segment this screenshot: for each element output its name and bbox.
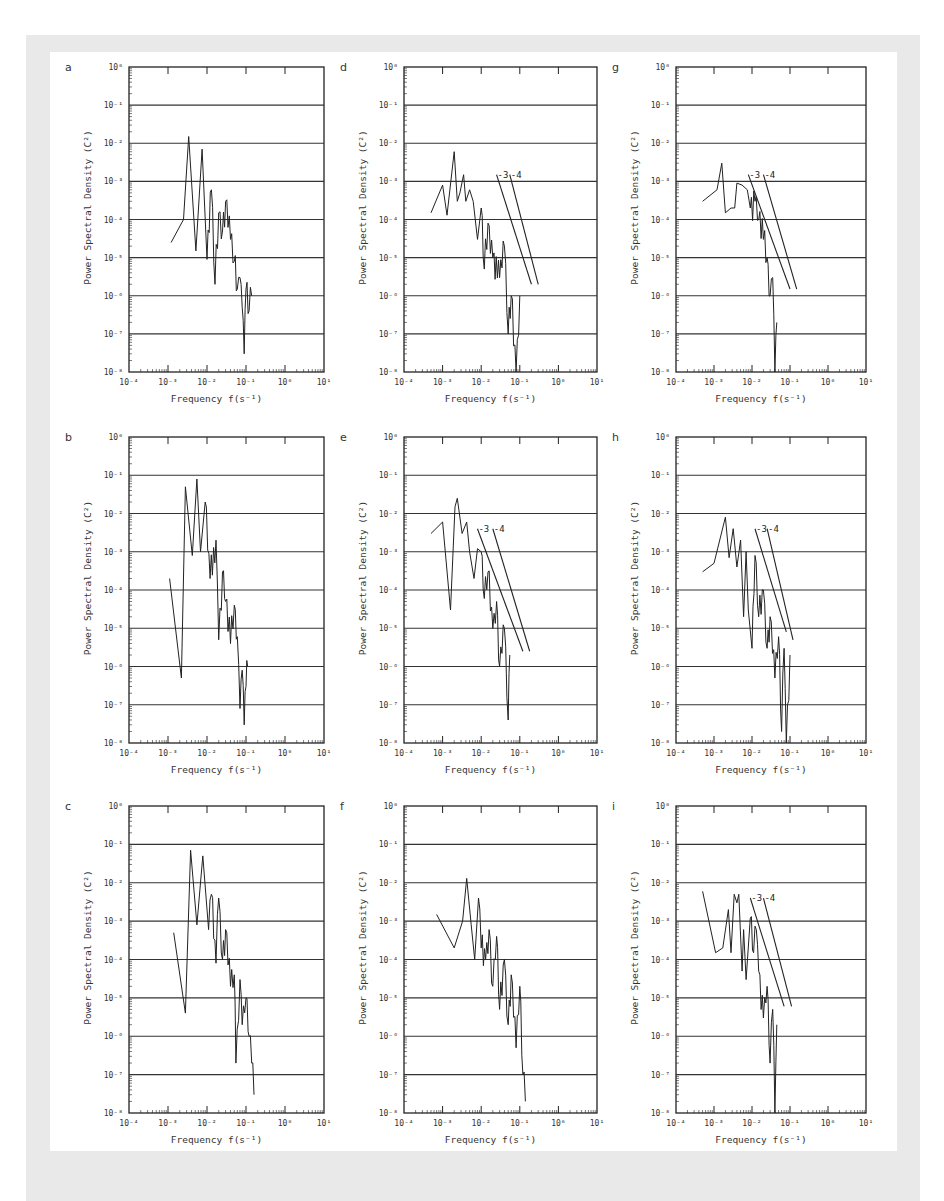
panel-letter: h xyxy=(612,431,619,444)
y-tick-label: 10⁻⁷ xyxy=(104,1071,123,1080)
x-tick-label: 10⁻² xyxy=(197,378,216,387)
y-tick-label: 10⁰ xyxy=(656,433,670,442)
y-tick-label: 10⁻² xyxy=(651,139,670,148)
y-tick-label: 10⁻⁸ xyxy=(651,739,670,748)
y-tick-label: 10⁻⁴ xyxy=(651,216,670,225)
x-tick-label: 10⁻⁴ xyxy=(119,749,138,758)
panel-letter: a xyxy=(65,61,72,74)
x-tick-label: 10¹ xyxy=(590,378,604,387)
x-tick-label: 10⁰ xyxy=(278,378,292,387)
panel-h: 10⁰10⁻¹10⁻²10⁻³10⁻⁴10⁻⁵10⁻⁶10⁻⁷10⁻⁸10⁻⁴1… xyxy=(612,431,873,775)
x-tick-label: 10⁻¹ xyxy=(236,1119,255,1128)
y-tick-label: 10⁻⁷ xyxy=(104,701,123,710)
x-tick-label: 10⁻³ xyxy=(433,378,452,387)
panel-letter: g xyxy=(612,61,619,74)
x-tick-label: 10¹ xyxy=(859,378,873,387)
x-tick-label: 10⁻¹ xyxy=(510,1119,529,1128)
y-tick-label: 10⁻⁴ xyxy=(104,956,123,965)
y-axis-label: Power Spectral Density (C²) xyxy=(357,870,368,1024)
x-axis-label: Frequency f(s⁻¹) xyxy=(171,1134,263,1145)
y-tick-label: 10⁻⁶ xyxy=(379,1032,398,1041)
y-tick-label: 10⁻⁴ xyxy=(651,586,670,595)
slope-label: -4 xyxy=(511,170,522,180)
panel-d: 10⁰10⁻¹10⁻²10⁻³10⁻⁴10⁻⁵10⁻⁶10⁻⁷10⁻⁸10⁻⁴1… xyxy=(340,61,604,404)
x-tick-label: 10⁻¹ xyxy=(780,1119,799,1128)
y-tick-label: 10⁻⁶ xyxy=(651,663,670,672)
x-axis-label: Frequency f(s⁻¹) xyxy=(445,393,537,404)
x-tick-label: 10¹ xyxy=(859,749,873,758)
y-tick-label: 10⁰ xyxy=(384,63,398,72)
y-tick-label: 10⁻² xyxy=(379,879,398,888)
x-tick-label: 10⁻³ xyxy=(158,1119,177,1128)
x-tick-label: 10⁻⁴ xyxy=(666,749,685,758)
slope-label: -4 xyxy=(764,170,775,180)
y-tick-label: 10⁻⁶ xyxy=(651,292,670,301)
x-tick-label: 10⁻⁴ xyxy=(394,749,413,758)
y-tick-label: 10⁻³ xyxy=(379,917,398,926)
panel-letter: b xyxy=(65,431,72,444)
x-tick-label: 10⁻² xyxy=(472,1119,491,1128)
x-tick-label: 10¹ xyxy=(317,1119,331,1128)
x-tick-label: 10⁰ xyxy=(821,749,835,758)
y-tick-label: 10⁻⁵ xyxy=(651,254,670,263)
y-tick-label: 10⁻⁶ xyxy=(379,663,398,672)
slope-label: -3 xyxy=(751,893,762,903)
panel-g: 10⁰10⁻¹10⁻²10⁻³10⁻⁴10⁻⁵10⁻⁶10⁻⁷10⁻⁸10⁻⁴1… xyxy=(612,61,873,404)
y-axis-label: Power Spectral Density (C²) xyxy=(629,501,640,655)
y-tick-label: 10⁻² xyxy=(104,139,123,148)
x-tick-label: 10⁻³ xyxy=(158,378,177,387)
panel-f: 10⁰10⁻¹10⁻²10⁻³10⁻⁴10⁻⁵10⁻⁶10⁻⁷10⁻⁸10⁻⁴1… xyxy=(340,800,604,1145)
y-axis-label: Power Spectral Density (C²) xyxy=(357,130,368,284)
spectrum-line xyxy=(174,850,254,1094)
y-tick-label: 10⁻¹ xyxy=(104,471,123,480)
x-tick-label: 10⁻¹ xyxy=(780,378,799,387)
y-tick-label: 10⁻⁸ xyxy=(379,739,398,748)
x-tick-label: 10⁰ xyxy=(821,378,835,387)
y-tick-label: 10⁻⁷ xyxy=(104,330,123,339)
x-axis-label: Frequency f(s⁻¹) xyxy=(445,764,537,775)
x-tick-label: 10⁰ xyxy=(821,1119,835,1128)
slope-label: -4 xyxy=(764,893,775,903)
y-tick-label: 10⁻⁸ xyxy=(651,368,670,377)
panel-c: 10⁰10⁻¹10⁻²10⁻³10⁻⁴10⁻⁵10⁻⁶10⁻⁷10⁻⁸10⁻⁴1… xyxy=(65,800,331,1145)
y-tick-label: 10⁻² xyxy=(379,510,398,519)
x-tick-label: 10⁻⁴ xyxy=(119,1119,138,1128)
x-tick-label: 10⁻⁴ xyxy=(119,378,138,387)
y-tick-label: 10⁰ xyxy=(656,63,670,72)
x-tick-label: 10⁻³ xyxy=(433,749,452,758)
y-tick-label: 10⁻⁵ xyxy=(104,624,123,633)
y-axis-label: Power Spectral Density (C²) xyxy=(82,501,93,655)
y-tick-label: 10⁻³ xyxy=(651,917,670,926)
y-tick-label: 10⁻⁶ xyxy=(104,1032,123,1041)
panel-letter: c xyxy=(65,800,71,813)
y-tick-label: 10⁻² xyxy=(651,879,670,888)
x-tick-label: 10⁻³ xyxy=(704,749,723,758)
y-tick-label: 10⁻⁴ xyxy=(379,956,398,965)
y-tick-label: 10⁻⁵ xyxy=(104,254,123,263)
panel-b: 10⁰10⁻¹10⁻²10⁻³10⁻⁴10⁻⁵10⁻⁶10⁻⁷10⁻⁸10⁻⁴1… xyxy=(65,431,331,775)
y-tick-label: 10⁰ xyxy=(656,802,670,811)
y-tick-label: 10⁻¹ xyxy=(104,101,123,110)
y-tick-label: 10⁻¹ xyxy=(651,471,670,480)
x-tick-label: 10¹ xyxy=(590,1119,604,1128)
x-tick-label: 10⁻¹ xyxy=(780,749,799,758)
panel-i: 10⁰10⁻¹10⁻²10⁻³10⁻⁴10⁻⁵10⁻⁶10⁻⁷10⁻⁸10⁻⁴1… xyxy=(612,800,873,1145)
slope-label: -3 xyxy=(749,170,760,180)
x-tick-label: 10⁻⁴ xyxy=(666,378,685,387)
x-tick-label: 10⁻⁴ xyxy=(666,1119,685,1128)
y-tick-label: 10⁻¹ xyxy=(379,840,398,849)
y-tick-label: 10⁻³ xyxy=(104,917,123,926)
panel-letter: i xyxy=(612,800,615,813)
y-tick-label: 10⁻⁶ xyxy=(104,663,123,672)
y-tick-label: 10⁻⁴ xyxy=(104,586,123,595)
y-tick-label: 10⁻⁸ xyxy=(104,739,123,748)
y-tick-label: 10⁻⁸ xyxy=(104,368,123,377)
x-tick-label: 10⁰ xyxy=(551,378,565,387)
y-tick-label: 10⁻⁵ xyxy=(651,624,670,633)
x-tick-label: 10⁻² xyxy=(472,378,491,387)
y-tick-label: 10⁻⁷ xyxy=(651,1071,670,1080)
y-tick-label: 10⁻¹ xyxy=(651,101,670,110)
y-tick-label: 10⁻⁷ xyxy=(651,701,670,710)
spectra-figure: 10⁰10⁻¹10⁻²10⁻³10⁻⁴10⁻⁵10⁻⁶10⁻⁷10⁻⁸10⁻⁴1… xyxy=(0,0,944,1201)
y-tick-label: 10⁻⁸ xyxy=(104,1109,123,1118)
